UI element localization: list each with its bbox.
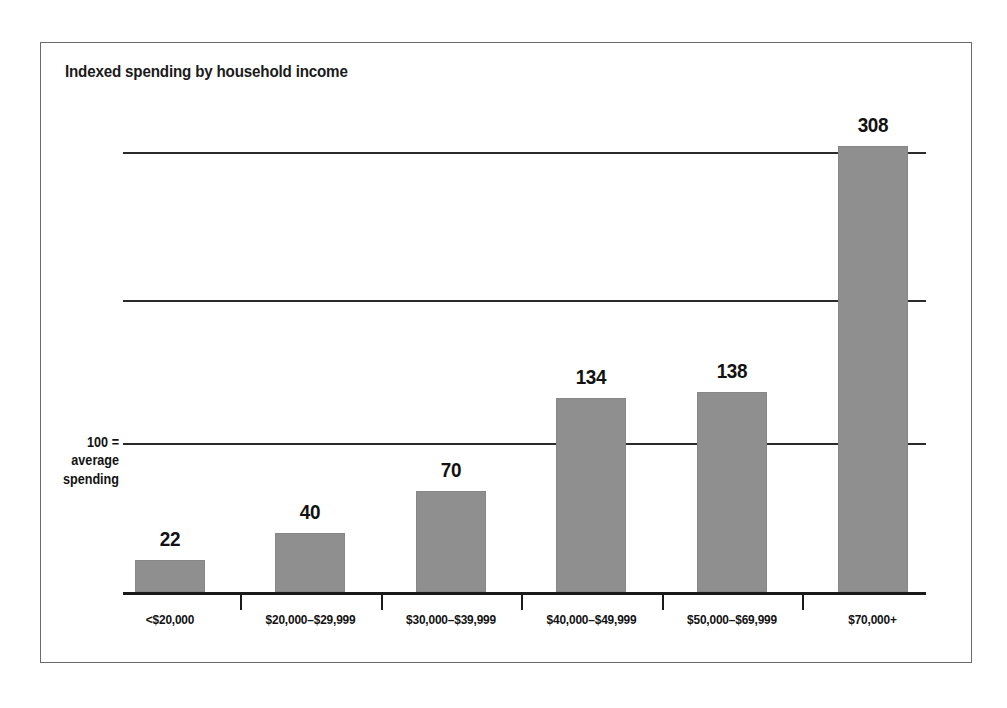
axis-tick-2 bbox=[381, 593, 383, 610]
bar-value-5: 308 bbox=[842, 113, 905, 137]
baseline-annotation-line-2: average bbox=[49, 451, 119, 469]
axis-tick-4 bbox=[662, 593, 664, 610]
category-label-2: $30,000–$39,999 bbox=[389, 612, 512, 627]
chart-plot-area: 22 40 70 134 138 308 <$20,000 $20,000–$2… bbox=[41, 43, 973, 664]
baseline-annotation-line-3: spending bbox=[49, 470, 119, 488]
bar-value-2: 70 bbox=[420, 458, 483, 482]
axis-tick-5 bbox=[802, 593, 804, 610]
x-axis-line bbox=[123, 592, 926, 595]
bar-value-0: 22 bbox=[139, 527, 202, 551]
category-label-0: <$20,000 bbox=[108, 612, 231, 627]
category-label-1: $20,000–$29,999 bbox=[248, 612, 372, 627]
category-label-5: $70,000+ bbox=[810, 612, 934, 627]
category-label-4: $50,000–$69,999 bbox=[670, 612, 793, 627]
bar-value-4: 138 bbox=[701, 359, 764, 383]
gridline-300 bbox=[123, 152, 926, 154]
chart-figure-frame: Indexed spending by household income 22 … bbox=[40, 42, 972, 663]
baseline-reference-annotation: 100 = average spending bbox=[49, 433, 119, 488]
bar-2 bbox=[416, 491, 486, 592]
bar-1 bbox=[275, 533, 345, 592]
gridline-200 bbox=[123, 300, 926, 302]
baseline-annotation-line-1: 100 = bbox=[49, 433, 119, 451]
axis-tick-1 bbox=[240, 593, 242, 610]
bar-0 bbox=[135, 560, 205, 592]
bar-3 bbox=[556, 398, 626, 592]
axis-tick-3 bbox=[521, 593, 523, 610]
bar-value-1: 40 bbox=[279, 500, 342, 524]
bar-5 bbox=[838, 146, 908, 592]
category-label-3: $40,000–$49,999 bbox=[529, 612, 653, 627]
bar-4 bbox=[697, 392, 767, 592]
gridline-100 bbox=[123, 443, 926, 445]
bar-value-3: 134 bbox=[560, 365, 623, 389]
